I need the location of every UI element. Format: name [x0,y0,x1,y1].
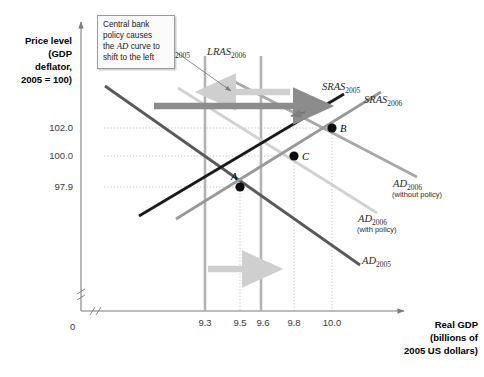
label-ad-2005: AD2005 [361,255,391,269]
label-ad-2005-sub: 2005 [376,260,391,269]
label-ad-2006-without-policy: AD2006 (without policy) [392,178,443,199]
y-axis-title-line-4: 2005 = 100) [21,74,72,85]
label-sras-2006-sub: 2006 [387,99,402,108]
y-axis-title-line-1: Price level [25,35,72,46]
callout-line-3-post: curve to [128,42,159,51]
origin-label: 0 [70,321,75,332]
label-ad-2006-with-policy: AD2006 (with policy) [357,213,397,234]
x-tick-9-6: 9.6 [256,317,269,328]
label-sras-2005: SRAS2005 [322,81,361,95]
svg-text:AD2005: AD2005 [361,255,391,269]
label-lras-2005-sub: 2005 [175,51,190,60]
x-tick-9-8: 9.8 [287,317,300,328]
svg-text:LRAS2006: LRAS2006 [206,46,246,60]
y-tick-97-9: 97.9 [55,181,74,192]
x-tick-9-5: 9.5 [233,317,246,328]
label-sras-2006: SRAS2006 [364,94,403,108]
label-ad-2005-base: AD [361,255,376,266]
callout-line-3-pre: the [103,42,117,51]
point-c-label: C [302,151,310,162]
label-sras-2006-base: SRAS [364,94,388,105]
diagram-svg: A B C LRAS2005 LRAS2006 SRAS2005 [0,0,484,377]
callout-line-2: policy causes [103,31,169,42]
y-axis-title-line-3: deflator, [35,61,72,72]
x-axis-title: Real GDP (billions of 2005 US dollars) [404,319,479,356]
label-ad-2006-without-base: AD [392,178,407,189]
curve-sras-2006 [176,92,381,219]
x-axis-title-line-3: 2005 US dollars) [404,345,478,356]
label-lras-2006: LRAS2006 [206,46,246,60]
x-axis-ticks: 9.3 9.5 9.6 9.8 10.0 0 [70,317,341,332]
label-lras-2006-base: LRAS [206,46,232,57]
callout-line-1: Central bank [103,20,169,31]
curve-sras-2005 [139,94,344,216]
y-axis-ticks: 102.0 100.0 97.9 [49,122,73,192]
label-sras-2005-sub: 2005 [345,86,360,95]
callout-box: Central bank policy causes the AD curve … [97,15,175,69]
label-ad-2006-with-note: (with policy) [357,225,397,234]
point-b-label: B [340,123,347,134]
x-tick-10-0: 10.0 [323,317,342,328]
x-axis-title-line-1: Real GDP [435,319,479,330]
y-tick-102: 102.0 [49,122,73,133]
label-ad-2006-without-note: (without policy) [392,190,443,199]
ad-as-diagram-figure: A B C LRAS2005 LRAS2006 SRAS2005 [0,0,484,377]
x-axis-title-line-2: (billions of [430,332,479,343]
callout-line-3-emphasis: AD [117,41,129,51]
label-sras-2005-base: SRAS [322,81,346,92]
y-tick-100: 100.0 [49,150,73,161]
point-a-label: A [230,171,238,182]
svg-text:SRAS2006: SRAS2006 [364,94,403,108]
callout-line-4: shift to the left [103,53,169,64]
callout-line-3: the AD curve to [103,41,169,53]
label-lras-2006-sub: 2006 [231,51,246,60]
y-axis-title-line-2: (GDP [48,48,72,59]
svg-text:SRAS2005: SRAS2005 [322,81,361,95]
x-tick-9-3: 9.3 [198,317,211,328]
label-ad-2006-with-base: AD [357,213,372,224]
y-axis-title: Price level (GDP deflator, 2005 = 100) [21,35,73,85]
